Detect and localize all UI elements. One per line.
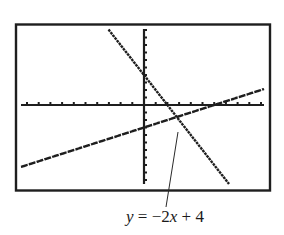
equation-label: y = −2x + 4 xyxy=(100,207,230,227)
calculator-graph-screen xyxy=(0,0,284,235)
